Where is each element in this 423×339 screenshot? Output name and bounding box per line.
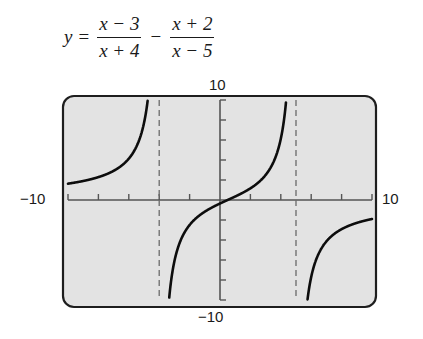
xmin-label: −10 <box>20 190 45 207</box>
ymin-label: −10 <box>198 308 223 325</box>
ymax-label: 10 <box>209 76 226 93</box>
graph-screen <box>0 0 423 339</box>
xmax-label: 10 <box>382 190 399 207</box>
